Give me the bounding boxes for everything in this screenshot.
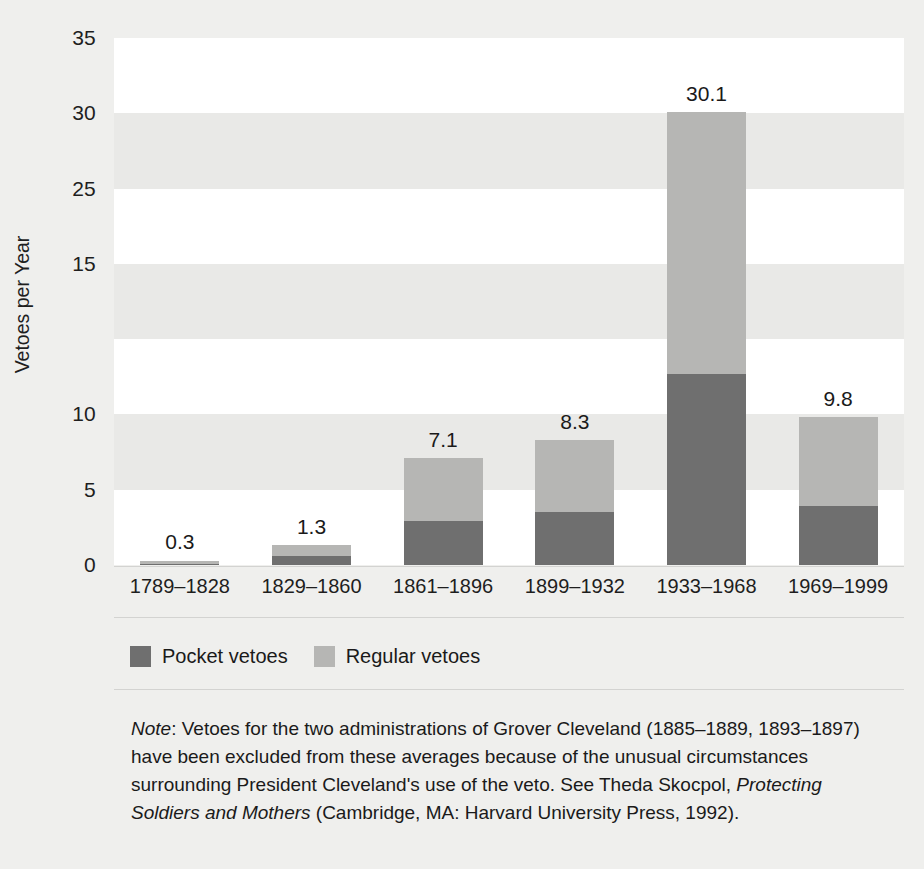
x-axis-tick-label: 1861–1896 xyxy=(393,575,493,598)
figure-chart-vetoes-per-year: Vetoes per Year 353025151050 0.31.37.18.… xyxy=(0,0,924,869)
bar-segment-regular-vetoes[interactable] xyxy=(799,417,878,506)
bar-value-label: 7.1 xyxy=(429,428,458,452)
y-axis-tick-label: 0 xyxy=(84,553,96,577)
bar-segment-pocket-vetoes[interactable] xyxy=(272,556,351,565)
bar-segment-pocket-vetoes[interactable] xyxy=(667,374,746,565)
legend-label: Pocket vetoes xyxy=(162,645,288,668)
bar-value-label: 0.3 xyxy=(165,530,194,554)
bar-segment-pocket-vetoes[interactable] xyxy=(404,521,483,565)
y-axis-title: Vetoes per Year xyxy=(11,205,34,405)
note-prefix: Note xyxy=(131,718,171,739)
bar-value-label: 30.1 xyxy=(686,82,727,106)
x-axis-tick-label: 1789–1828 xyxy=(130,575,230,598)
y-axis-tick-label: 30 xyxy=(72,101,96,125)
bar-group[interactable] xyxy=(667,112,746,565)
bar-value-label: 8.3 xyxy=(560,410,589,434)
bar-group[interactable] xyxy=(799,417,878,565)
bar-segment-regular-vetoes[interactable] xyxy=(140,561,219,564)
separator-rule xyxy=(114,617,904,618)
bar-group[interactable] xyxy=(140,560,219,565)
bar-group[interactable] xyxy=(535,440,614,565)
x-axis-tick-label: 1829–1860 xyxy=(261,575,361,598)
y-axis-tick-label: 5 xyxy=(84,478,96,502)
separator-rule xyxy=(114,566,904,567)
bar-segment-regular-vetoes[interactable] xyxy=(667,112,746,374)
legend-item[interactable]: Regular vetoes xyxy=(314,645,481,668)
separator-rule xyxy=(114,689,904,690)
y-axis-tick-label: 35 xyxy=(72,26,96,50)
x-axis-tick-label: 1969–1999 xyxy=(788,575,888,598)
bars-container: 0.31.37.18.330.19.8 xyxy=(114,38,904,565)
legend-swatch-icon xyxy=(130,646,151,667)
figure-note: Note: Vetoes for the two administrations… xyxy=(131,715,891,827)
y-axis-tick-label: 15 xyxy=(72,252,96,276)
bar-segment-pocket-vetoes[interactable] xyxy=(799,506,878,565)
bar-segment-regular-vetoes[interactable] xyxy=(404,458,483,521)
y-axis: Vetoes per Year 353025151050 xyxy=(0,38,114,565)
plot-area: 0.31.37.18.330.19.8 xyxy=(114,38,904,565)
bar-segment-regular-vetoes[interactable] xyxy=(272,545,351,556)
x-axis-tick-label: 1899–1932 xyxy=(525,575,625,598)
bar-segment-regular-vetoes[interactable] xyxy=(535,440,614,512)
x-axis-tick-label: 1933–1968 xyxy=(656,575,756,598)
x-axis: 1789–18281829–18601861–18961899–19321933… xyxy=(114,575,904,609)
bar-value-label: 9.8 xyxy=(824,387,853,411)
chart-legend: Pocket vetoesRegular vetoes xyxy=(130,645,480,668)
y-axis-tick-label: 10 xyxy=(72,402,96,426)
bar-group[interactable] xyxy=(404,458,483,565)
bar-segment-pocket-vetoes[interactable] xyxy=(140,564,219,566)
legend-label: Regular vetoes xyxy=(346,645,481,668)
legend-swatch-icon xyxy=(314,646,335,667)
y-axis-tick-label: 25 xyxy=(72,177,96,201)
bar-segment-pocket-vetoes[interactable] xyxy=(535,512,614,565)
note-body-2: (Cambridge, MA: Harvard University Press… xyxy=(311,802,740,823)
bar-value-label: 1.3 xyxy=(297,515,326,539)
legend-item[interactable]: Pocket vetoes xyxy=(130,645,288,668)
bar-group[interactable] xyxy=(272,545,351,565)
